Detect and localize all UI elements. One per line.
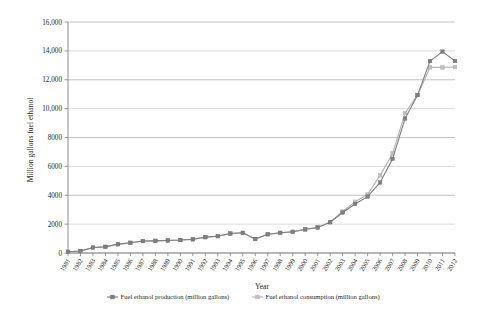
data-point-marker bbox=[403, 111, 407, 115]
y-tick-label: 12,000 bbox=[42, 76, 62, 84]
data-point-marker bbox=[216, 234, 220, 238]
data-point-marker bbox=[416, 93, 420, 97]
data-point-marker bbox=[316, 226, 320, 230]
x-tick-label: 1983 bbox=[83, 257, 96, 272]
ethanol-line-chart: 0200040006000800010,00012,00014,00016,00… bbox=[0, 0, 488, 313]
x-tick-label: 2002 bbox=[321, 257, 334, 272]
x-tick-label: 2003 bbox=[333, 257, 346, 272]
data-point-marker bbox=[441, 50, 445, 54]
data-point-marker bbox=[378, 174, 382, 178]
chart-legend: Fuel ethanol production (million gallons… bbox=[107, 293, 380, 301]
data-point-marker bbox=[266, 232, 270, 236]
x-tick-label: 1996 bbox=[246, 257, 259, 272]
data-point-marker bbox=[154, 239, 158, 243]
x-tick-label: 1994 bbox=[221, 257, 234, 272]
data-point-marker bbox=[391, 157, 395, 161]
x-tick-label: 2001 bbox=[308, 257, 321, 272]
x-tick-label: 2011 bbox=[433, 257, 446, 272]
x-tick-label: 1995 bbox=[233, 257, 246, 272]
data-point-marker bbox=[328, 220, 332, 224]
data-point-marker bbox=[453, 65, 457, 69]
x-tick-label: 1998 bbox=[271, 257, 284, 272]
x-axis-title: Year bbox=[255, 282, 269, 291]
data-point-marker bbox=[366, 195, 370, 199]
y-axis-title: Million gallons fuel ethanol bbox=[26, 98, 35, 183]
data-point-marker bbox=[303, 228, 307, 232]
legend-label: Fuel ethanol production (million gallons… bbox=[121, 293, 230, 301]
data-point-marker bbox=[291, 230, 295, 234]
data-point-marker bbox=[91, 246, 95, 250]
y-tick-label: 6000 bbox=[48, 163, 63, 171]
legend-label: Fuel ethanol consumption (million gallon… bbox=[266, 293, 380, 301]
data-series-layer bbox=[66, 50, 457, 254]
x-tick-label: 1981 bbox=[58, 257, 71, 272]
data-point-marker bbox=[66, 250, 70, 254]
data-point-marker bbox=[129, 241, 133, 245]
data-point-marker bbox=[204, 235, 208, 239]
x-tick-label: 1989 bbox=[158, 257, 171, 272]
x-tick-label: 1988 bbox=[146, 257, 159, 272]
data-point-marker bbox=[341, 211, 345, 215]
data-point-marker bbox=[166, 239, 170, 243]
data-point-marker bbox=[141, 239, 145, 243]
x-tick-label: 2000 bbox=[296, 257, 309, 272]
data-point-marker bbox=[191, 237, 195, 241]
gridlines bbox=[68, 22, 455, 253]
data-point-marker bbox=[228, 232, 232, 236]
x-tick-label: 1982 bbox=[71, 257, 84, 272]
x-tick-label: 1987 bbox=[133, 257, 146, 272]
data-point-marker bbox=[79, 249, 83, 253]
y-tick-label: 14,000 bbox=[42, 47, 62, 55]
x-tick-label: 2004 bbox=[346, 257, 359, 272]
y-tick-label: 8000 bbox=[48, 134, 63, 142]
x-tick-label: 1985 bbox=[108, 257, 121, 272]
x-tick-label: 2005 bbox=[358, 257, 371, 272]
x-tick-label: 2006 bbox=[371, 257, 384, 272]
x-tick-marks bbox=[68, 253, 455, 256]
data-point-marker bbox=[253, 237, 257, 241]
x-tick-label: 2007 bbox=[383, 257, 396, 272]
x-tick-labels: 1981198219831984198519861987198819891990… bbox=[58, 257, 458, 272]
data-point-marker bbox=[241, 231, 245, 235]
data-point-marker bbox=[378, 181, 382, 185]
x-tick-label: 1999 bbox=[283, 257, 296, 272]
x-tick-label: 1993 bbox=[208, 257, 221, 272]
data-point-marker bbox=[441, 66, 445, 70]
y-tick-label: 0 bbox=[58, 250, 62, 258]
x-tick-label: 1986 bbox=[121, 257, 134, 272]
y-tick-marks bbox=[65, 22, 69, 253]
data-point-marker bbox=[116, 242, 120, 246]
x-tick-label: 1991 bbox=[183, 257, 196, 272]
x-tick-label: 1992 bbox=[196, 257, 209, 272]
y-tick-label: 2000 bbox=[48, 221, 63, 229]
x-tick-label: 2012 bbox=[445, 257, 458, 272]
data-point-marker bbox=[453, 59, 457, 63]
legend-marker-swatch bbox=[256, 295, 260, 299]
x-tick-label: 1984 bbox=[96, 257, 109, 272]
series-line-production bbox=[68, 52, 455, 252]
x-tick-label: 2010 bbox=[420, 257, 433, 272]
x-tick-label: 2008 bbox=[395, 257, 408, 272]
legend-marker-swatch bbox=[111, 295, 115, 299]
data-point-marker bbox=[403, 117, 407, 121]
x-tick-label: 2009 bbox=[408, 257, 421, 272]
y-tick-label: 4000 bbox=[48, 192, 63, 200]
data-point-marker bbox=[353, 202, 357, 206]
y-tick-label: 16,000 bbox=[42, 19, 62, 27]
data-point-marker bbox=[428, 59, 432, 63]
chart-figure: 0200040006000800010,00012,00014,00016,00… bbox=[0, 0, 488, 313]
data-point-marker bbox=[278, 231, 282, 235]
y-tick-label: 10,000 bbox=[42, 105, 62, 113]
y-tick-labels: 0200040006000800010,00012,00014,00016,00… bbox=[42, 19, 62, 258]
x-tick-label: 1990 bbox=[171, 257, 184, 272]
data-point-marker bbox=[104, 245, 108, 249]
data-point-marker bbox=[179, 238, 183, 242]
x-tick-label: 1997 bbox=[258, 257, 271, 272]
